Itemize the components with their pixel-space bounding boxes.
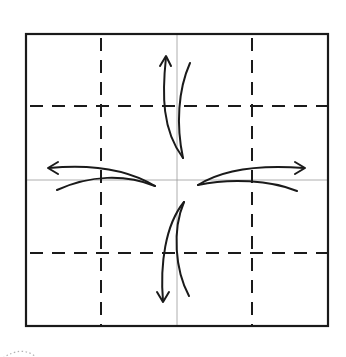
origami-diagram (0, 0, 346, 357)
dashed-fold-lines (30, 38, 328, 326)
fold-arrows (48, 56, 305, 302)
dotted-mark (3, 351, 35, 357)
